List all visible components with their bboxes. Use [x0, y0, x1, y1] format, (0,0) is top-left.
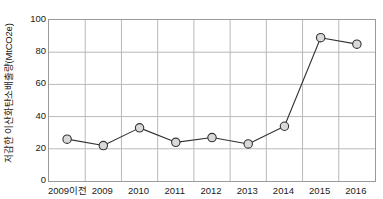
x-tick-label: 2016 — [338, 184, 374, 197]
y-tick-label: 100 — [18, 14, 46, 24]
y-axis-title: 저감한 이산화탄소배출량(MtCO2e) — [0, 0, 16, 186]
x-axis-tick-labels: 2009이전20092010201120122013201420152016 — [48, 184, 376, 199]
data-point-marker — [353, 40, 361, 48]
data-point-marker — [99, 141, 107, 149]
y-tick-label: 60 — [18, 78, 46, 88]
y-axis-title-label: 저감한 이산화탄소배출량(MtCO2e) — [1, 23, 15, 162]
x-tick-label: 2010 — [120, 184, 156, 197]
chart-container: 저감한 이산화탄소배출량(MtCO2e) 020406080100 2009이전… — [0, 0, 383, 199]
x-tick-label: 2012 — [193, 184, 229, 197]
x-tick-label: 2014 — [265, 184, 301, 197]
x-tick-label: 2009 — [84, 184, 120, 197]
y-tick-label: 80 — [18, 46, 46, 56]
chart-plot-svg — [49, 20, 375, 181]
data-point-marker — [63, 135, 71, 143]
x-tick-label: 2013 — [229, 184, 265, 197]
data-point-marker — [172, 138, 180, 146]
y-tick-label: 20 — [18, 143, 46, 153]
data-point-marker — [280, 122, 288, 130]
x-tick-label: 2009이전 — [48, 184, 84, 197]
chart-title — [0, 0, 383, 5]
data-point-marker — [316, 34, 324, 42]
data-point-marker — [208, 133, 216, 141]
x-tick-label: 2011 — [157, 184, 193, 197]
y-tick-label: 40 — [18, 111, 46, 121]
series-line — [67, 38, 357, 146]
plot-area — [48, 19, 376, 182]
y-tick-label: 0 — [18, 175, 46, 185]
x-tick-label: 2015 — [302, 184, 338, 197]
y-axis-tick-labels: 020406080100 — [17, 0, 46, 199]
data-point-marker — [244, 140, 252, 148]
data-point-marker — [135, 124, 143, 132]
